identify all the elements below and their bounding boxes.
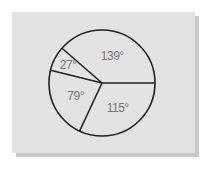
slice-label: 115°	[107, 101, 130, 115]
slice-label: 27°	[60, 58, 77, 72]
pie-diagram: 139°27°79°115°	[0, 0, 208, 170]
slice-label: 139°	[101, 49, 125, 63]
slice-label: 79°	[67, 89, 84, 103]
